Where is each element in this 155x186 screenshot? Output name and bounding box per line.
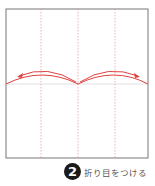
step-number-badge: 2 xyxy=(64,163,81,180)
origami-diagram xyxy=(0,0,155,186)
step-label: 2 折り目をつける xyxy=(64,163,147,180)
step-caption: 折り目をつける xyxy=(84,166,147,178)
